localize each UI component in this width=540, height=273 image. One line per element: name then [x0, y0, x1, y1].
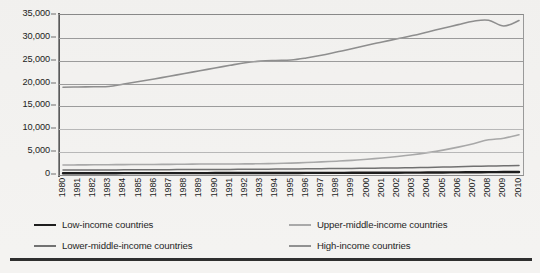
- y-axis-tick-label: 25,000: [22, 55, 50, 64]
- x-axis-tick-label: 1987: [164, 178, 173, 197]
- y-axis-tick-mark: [51, 151, 56, 152]
- legend-swatch-line-icon: [34, 245, 56, 247]
- y-axis-tick-label: 30,000: [22, 32, 50, 41]
- x-axis-tick-label: 2007: [468, 178, 477, 197]
- y-axis-tick-mark: [51, 174, 56, 175]
- series-line: [63, 165, 519, 170]
- x-axis-tick-label: 2000: [362, 178, 371, 197]
- x-axis-tick-label: 1998: [331, 178, 340, 197]
- y-axis-tick-mark: [51, 105, 56, 106]
- legend-item[interactable]: Upper-middle-income countries: [289, 219, 534, 230]
- x-axis-tick-label: 1995: [286, 178, 295, 197]
- chart-legend: Low-income countriesUpper-middle-income …: [0, 214, 540, 256]
- plot-wrapper: 05,00010,00015,00020,00025,00030,00035,0…: [0, 0, 540, 215]
- y-axis-tick-mark: [51, 59, 56, 60]
- gridline: [59, 152, 523, 153]
- legend-item[interactable]: High-income countries: [289, 240, 534, 251]
- gridline: [59, 61, 523, 62]
- x-axis-tick-label: 2009: [498, 178, 507, 197]
- x-axis: 1980198119821983198419851986198719881989…: [58, 178, 524, 214]
- x-axis-tick-label: 1988: [179, 178, 188, 197]
- y-axis-tick-label: 15,000: [22, 101, 50, 110]
- legend-item[interactable]: Low-income countries: [34, 219, 289, 230]
- x-axis-tick-label: 2008: [483, 178, 492, 197]
- legend-item[interactable]: Lower-middle-income countries: [34, 240, 289, 251]
- x-axis-tick-label: 1990: [210, 178, 219, 197]
- y-axis-tick-mark: [51, 128, 56, 129]
- x-axis-tick-label: 1991: [225, 178, 234, 197]
- x-axis-tick-label: 2006: [453, 178, 462, 197]
- y-axis-tick-label: 5,000: [28, 147, 51, 156]
- y-axis-tick-label: 20,000: [22, 78, 50, 87]
- x-axis-tick-label: 2001: [377, 178, 386, 197]
- x-axis-tick-label: 1996: [301, 178, 310, 197]
- chart-figure: 05,00010,00015,00020,00025,00030,00035,0…: [0, 0, 540, 273]
- y-axis-tick-label: 10,000: [22, 124, 50, 133]
- y-axis-tick-mark: [51, 14, 56, 15]
- legend-swatch-line-icon: [289, 245, 311, 247]
- y-axis-tick-mark: [51, 36, 56, 37]
- legend-item-label: Low-income countries: [62, 219, 153, 230]
- gridline: [59, 38, 523, 39]
- x-axis-tick-label: 1984: [118, 178, 127, 197]
- series-line: [63, 20, 519, 87]
- x-axis-tick-label: 1982: [88, 178, 97, 197]
- x-axis-tick-label: 1993: [255, 178, 264, 197]
- legend-swatch-line-icon: [34, 224, 56, 226]
- x-axis-tick-label: 2010: [514, 178, 523, 197]
- x-axis-tick-label: 1981: [73, 178, 82, 197]
- gridline: [59, 84, 523, 85]
- footer-divider: [10, 258, 532, 261]
- legend-item-label: Upper-middle-income countries: [317, 219, 447, 230]
- x-axis-tick-label: 1989: [194, 178, 203, 197]
- y-axis-tick-label: 35,000: [22, 9, 50, 18]
- x-axis-tick-label: 1985: [134, 178, 143, 197]
- x-axis-tick-label: 1999: [346, 178, 355, 197]
- y-axis-tick-mark: [51, 82, 56, 83]
- x-axis-tick-label: 2004: [422, 178, 431, 197]
- x-axis-tick-label: 1997: [316, 178, 325, 197]
- x-axis-tick-label: 2005: [438, 178, 447, 197]
- x-axis-tick-label: 2002: [392, 178, 401, 197]
- x-axis-tick-label: 1983: [103, 178, 112, 197]
- series-line: [63, 172, 519, 173]
- x-axis-tick-label: 1992: [240, 178, 249, 197]
- legend-item-label: High-income countries: [317, 240, 410, 251]
- legend-item-label: Lower-middle-income countries: [62, 240, 192, 251]
- y-axis: 05,00010,00015,00020,00025,00030,00035,0…: [0, 0, 58, 215]
- series-lines: [59, 15, 523, 175]
- x-axis-tick-label: 1986: [149, 178, 158, 197]
- series-line: [63, 135, 519, 165]
- x-axis-tick-label: 1980: [58, 178, 67, 197]
- plot-area: [58, 14, 524, 176]
- y-axis-tick-label: 0: [45, 169, 50, 178]
- gridline: [59, 129, 523, 130]
- gridline: [59, 106, 523, 107]
- x-axis-tick-label: 2003: [407, 178, 416, 197]
- legend-swatch-line-icon: [289, 224, 311, 226]
- x-axis-tick-label: 1994: [270, 178, 279, 197]
